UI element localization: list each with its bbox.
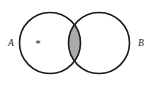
set-label-a: A: [7, 38, 14, 48]
set-label-b: B: [138, 38, 144, 48]
venn-diagram-canvas: A B *: [0, 0, 149, 86]
venn-diagram-figure: A B *: [0, 0, 149, 86]
element-asterisk-mark: *: [35, 37, 41, 49]
